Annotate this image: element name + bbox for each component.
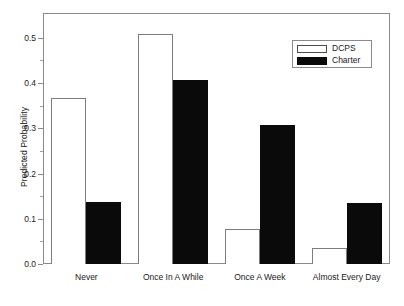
y-axis-title: Predicted Probability (19, 67, 29, 227)
y-tick-minor (40, 241, 43, 242)
bar-dcps-1 (138, 34, 173, 264)
legend-swatch-dcps (297, 45, 327, 53)
x-tick-label: Once In A While (143, 272, 203, 282)
bar-charter-2 (260, 125, 295, 264)
y-tick-major (38, 83, 43, 84)
bar-dcps-3 (312, 248, 347, 264)
y-tick-minor (40, 151, 43, 152)
y-tick-label: 0.5 (0, 33, 36, 43)
x-tick-label: Once A Week (234, 272, 285, 282)
y-tick-minor (40, 106, 43, 107)
x-tick-label: Almost Every Day (313, 272, 381, 282)
y-tick-major (38, 174, 43, 175)
y-tick-label: 0.3 (0, 123, 36, 133)
legend-label-dcps: DCPS (332, 44, 356, 53)
bar-charter-0 (86, 202, 121, 264)
legend-item-dcps: DCPS (297, 43, 356, 54)
legend-swatch-charter (297, 57, 327, 65)
legend: DCPS Charter (292, 40, 372, 68)
y-tick-major (38, 38, 43, 39)
y-tick-major (38, 219, 43, 220)
y-tick-minor (40, 196, 43, 197)
y-tick-major (38, 264, 43, 265)
bar-dcps-2 (225, 229, 260, 264)
y-tick-label: 0.1 (0, 214, 36, 224)
y-tick-major (38, 128, 43, 129)
bar-charter-3 (347, 203, 382, 264)
y-tick-minor (40, 60, 43, 61)
y-tick-label: 0.0 (0, 259, 36, 269)
legend-label-charter: Charter (332, 56, 360, 65)
y-tick-label: 0.4 (0, 78, 36, 88)
bar-dcps-0 (51, 98, 86, 264)
bar-charter-1 (173, 80, 208, 264)
x-tick-label: Never (75, 272, 98, 282)
legend-item-charter: Charter (297, 55, 360, 66)
y-tick-label: 0.2 (0, 169, 36, 179)
bar-chart: Predicted Probability 0.00.10.20.30.40.5… (0, 0, 404, 306)
